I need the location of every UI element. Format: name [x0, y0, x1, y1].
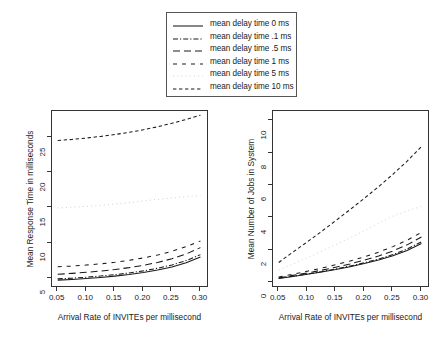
- y-tick-label: 8: [258, 152, 270, 182]
- legend-key-10ms: [171, 81, 205, 93]
- legend-line-sample: [171, 83, 205, 95]
- legend-key-0ms: [171, 18, 205, 30]
- y-tick-label: 6: [258, 184, 270, 214]
- legend-row: mean delay time 0 ms: [171, 18, 292, 31]
- y-tick-label: 2: [258, 249, 270, 279]
- legend: mean delay time 0 ms mean delay time .1 …: [166, 12, 297, 97]
- y-tick-label: 4: [258, 217, 270, 247]
- series-line: [279, 232, 422, 277]
- x-tick: [391, 287, 392, 291]
- plot-area-jobs-in-system: [272, 110, 429, 287]
- legend-row: mean delay time 10 ms: [171, 81, 292, 94]
- x-tick-label: 0.25: [155, 293, 187, 302]
- x-tick-label: 0.10: [69, 293, 101, 302]
- x-tick-label: 0.20: [126, 293, 158, 302]
- series-layer: [52, 111, 208, 287]
- legend-key-5ms: [171, 68, 205, 80]
- y-axis-title-jobs-in-system: Mean Number of Jobs in System: [244, 90, 256, 307]
- series-line: [58, 257, 201, 280]
- x-tick-label: 0.30: [183, 293, 215, 302]
- legend-row: mean delay time 5 ms: [171, 68, 292, 81]
- legend-key-1ms: [171, 56, 205, 68]
- figure-canvas: mean delay time 0 ms mean delay time .1 …: [0, 0, 431, 342]
- series-line: [58, 248, 201, 275]
- x-tick-label: 0.10: [290, 293, 322, 302]
- x-axis-title-jobs-in-system: Arrival Rate of INVITEs per millisecond: [272, 312, 429, 322]
- x-tick-label: 0.30: [404, 293, 431, 302]
- x-tick-label: 0.15: [98, 293, 130, 302]
- legend-row: mean delay time .1 ms: [171, 31, 292, 44]
- x-axis-title-response-time: Arrival Rate of INVITEs per millisecond: [51, 312, 208, 322]
- y-axis-title-response-time: Mean Response Time in milliseconds: [23, 90, 35, 307]
- x-tick-label: 0.25: [376, 293, 408, 302]
- series-line: [58, 195, 201, 208]
- x-tick: [113, 287, 114, 291]
- series-line: [58, 255, 201, 279]
- y-tick-label: 20: [37, 172, 49, 202]
- series-layer: [273, 111, 429, 287]
- y-tick-label: 15: [37, 207, 49, 237]
- x-tick: [199, 287, 200, 291]
- x-tick: [334, 287, 335, 291]
- x-tick-label: 0.20: [347, 293, 379, 302]
- x-tick: [142, 287, 143, 291]
- legend-key-0p5ms: [171, 43, 205, 55]
- legend-label: mean delay time 0 ms: [210, 18, 289, 30]
- plot-area-response-time: [51, 110, 208, 287]
- x-tick: [56, 287, 57, 291]
- x-tick: [170, 287, 171, 291]
- y-tick-label: 10: [37, 242, 49, 272]
- chart-panel-response-time: Mean Response Time in milliseconds Arriv…: [8, 105, 208, 340]
- legend-label: mean delay time .5 ms: [210, 43, 291, 55]
- y-tick-label: 25: [37, 137, 49, 167]
- legend-label: mean delay time .1 ms: [210, 31, 291, 43]
- chart-panel-jobs-in-system: Mean Number of Jobs in System Arrival Ra…: [223, 105, 428, 340]
- x-tick: [363, 287, 364, 291]
- legend-label: mean delay time 1 ms: [210, 56, 289, 68]
- legend-key-0p1ms: [171, 31, 205, 43]
- series-line: [279, 147, 422, 263]
- series-line: [58, 115, 201, 140]
- legend-row: mean delay time .5 ms: [171, 43, 292, 56]
- y-tick-label: 5: [37, 277, 49, 307]
- x-tick: [306, 287, 307, 291]
- legend-label: mean delay time 5 ms: [210, 68, 289, 80]
- x-tick: [420, 287, 421, 291]
- legend-row: mean delay time 1 ms: [171, 56, 292, 69]
- x-tick: [85, 287, 86, 291]
- x-tick: [277, 287, 278, 291]
- y-tick-label: 10: [258, 120, 270, 150]
- y-tick-label: 0: [258, 281, 270, 311]
- x-tick-label: 0.15: [319, 293, 351, 302]
